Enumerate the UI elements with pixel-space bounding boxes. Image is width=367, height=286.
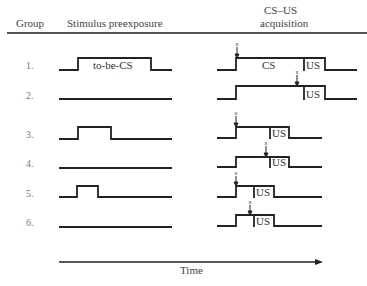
us-label-4: US bbox=[272, 156, 286, 168]
time-axis-label: Time bbox=[180, 264, 203, 276]
marker-x-5: x bbox=[235, 170, 238, 176]
marker-x-6: x bbox=[249, 199, 252, 205]
acq-trace-1 bbox=[217, 58, 357, 70]
us-label-1: US bbox=[306, 59, 320, 71]
marker-x-4: x bbox=[265, 140, 268, 146]
marker-x-2: x bbox=[296, 69, 299, 75]
us-label-6: US bbox=[256, 215, 270, 227]
marker-x-3: x bbox=[235, 110, 238, 116]
marker-arrow-6 bbox=[248, 205, 252, 215]
marker-x-1: x bbox=[236, 41, 239, 47]
marker-arrow-1 bbox=[235, 47, 239, 58]
acq-trace-2 bbox=[217, 86, 357, 99]
marker-arrow-3 bbox=[234, 116, 238, 127]
us-label-3: US bbox=[272, 127, 286, 139]
cs-label-1: CS bbox=[262, 59, 275, 71]
marker-arrow-4 bbox=[264, 146, 268, 157]
us-label-2: US bbox=[306, 88, 320, 100]
pre-label-to-be-cs: to-be-CS bbox=[93, 59, 133, 71]
marker-arrow-5 bbox=[234, 176, 238, 186]
time-axis-arrowhead bbox=[315, 259, 323, 265]
marker-arrow-2 bbox=[295, 75, 299, 86]
us-label-5: US bbox=[256, 186, 270, 198]
timing-diagram: x x x x x x to-be-CS CS US US US US US U… bbox=[0, 0, 367, 286]
pre-trace-5 bbox=[59, 186, 172, 197]
pre-trace-3 bbox=[59, 127, 172, 139]
